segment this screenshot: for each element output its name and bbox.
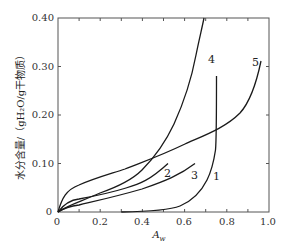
- curve-5: [58, 61, 261, 212]
- x-tick-label-0: 0: [54, 216, 60, 227]
- x-tick-label-0.6: 0.6: [176, 216, 192, 227]
- x-tick-label-0.2: 0.2: [92, 216, 108, 227]
- x-tick-label-1.0: 1.0: [260, 216, 276, 227]
- y-axis-title: 水分含量/（gH₂O/g干物质）: [14, 50, 26, 180]
- curve-label-1: 1: [213, 170, 220, 183]
- curve-label-5: 5: [252, 56, 259, 69]
- curve-label-4: 4: [208, 53, 215, 66]
- x-ticks: [79, 18, 248, 212]
- y-tick-label-0.40: 0.40: [32, 12, 54, 23]
- x-tick-label-0.8: 0.8: [219, 216, 235, 227]
- curve-1: [121, 76, 216, 212]
- x-axis-title: Aw: [151, 229, 165, 243]
- curve-label-2: 2: [164, 167, 171, 180]
- curve-4: [58, 18, 204, 212]
- curve-label-3: 3: [191, 169, 198, 182]
- y-tick-label-0.20: 0.20: [32, 109, 54, 120]
- y-tick-label-0.30: 0.30: [32, 61, 54, 72]
- y-tick-label-0: 0: [46, 206, 52, 217]
- sorption-isotherm-chart: 0 0.10 0.20 0.30 0.40 0 0.2 0.4 0.6 0.8 …: [0, 0, 290, 246]
- x-tick-label-0.4: 0.4: [134, 216, 150, 227]
- y-tick-label-0.10: 0.10: [32, 158, 54, 169]
